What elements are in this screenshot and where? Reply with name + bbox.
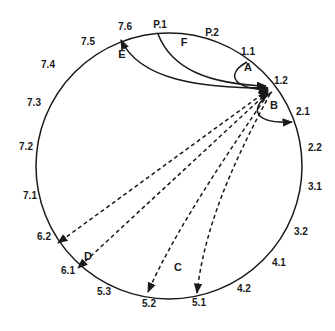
- region-labels: A B C D E F: [84, 36, 278, 273]
- node-label: P.1: [153, 19, 167, 30]
- edge-c-5-2: [148, 94, 268, 292]
- node-label: P.2: [205, 27, 219, 38]
- node-label: 3.1: [308, 181, 322, 192]
- node-label: 7.4: [41, 59, 55, 70]
- region-label-c: C: [174, 261, 182, 273]
- region-label-e: E: [118, 48, 125, 60]
- region-label-f: F: [181, 36, 188, 48]
- circular-diagram: P.1 P.2 1.1 1.2 2.1 2.2 3.1 3.2 4.1 4.2 …: [0, 0, 335, 331]
- node-label: 4.1: [272, 257, 286, 268]
- outer-ring: [36, 33, 302, 299]
- node-label: 5.3: [97, 286, 111, 297]
- edge-d-6-2: [58, 90, 268, 243]
- node-label: 3.2: [294, 226, 308, 237]
- node-label: 7.3: [27, 97, 41, 108]
- node-label: 7.1: [23, 190, 37, 201]
- node-label: 5.1: [192, 297, 206, 308]
- node-label: 6.1: [61, 265, 75, 276]
- node-label: 5.2: [142, 298, 156, 309]
- node-label: 4.2: [237, 283, 251, 294]
- node-label: 2.2: [308, 142, 322, 153]
- node-label: 1.2: [274, 75, 288, 86]
- node-label: 6.2: [37, 231, 51, 242]
- node-label: 2.1: [296, 106, 310, 117]
- region-label-b: B: [270, 99, 278, 111]
- node-label: 7.2: [19, 141, 33, 152]
- node-labels: P.1 P.2 1.1 1.2 2.1 2.2 3.1 3.2 4.1 4.2 …: [19, 19, 322, 309]
- node-label: 7.6: [118, 21, 132, 32]
- node-label: 7.5: [81, 36, 95, 47]
- region-label-a: A: [244, 61, 252, 73]
- region-label-d: D: [84, 250, 92, 262]
- node-label: 1.1: [241, 46, 255, 57]
